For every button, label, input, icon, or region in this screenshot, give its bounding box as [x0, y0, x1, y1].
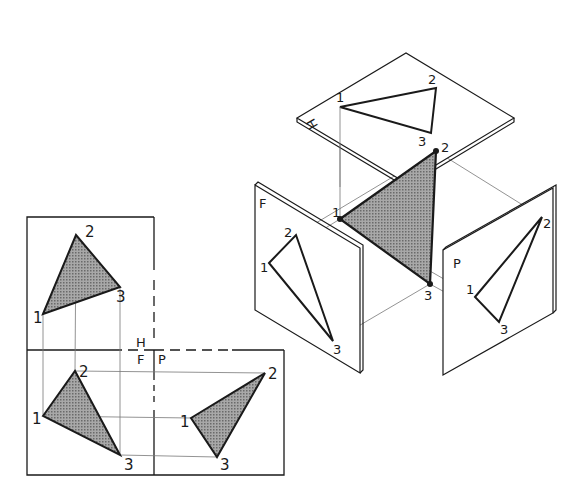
plane-label-p: P: [158, 352, 166, 367]
plane-label-f: F: [137, 352, 144, 367]
profile-plane: P 1 2 3: [443, 185, 556, 375]
plane-label-h: H: [136, 335, 146, 350]
vertex-3-dot: [427, 281, 433, 287]
f-label-1: 1: [260, 260, 268, 275]
side-view-triangle: [191, 373, 265, 457]
h-label-1: 1: [336, 90, 344, 105]
f-plane-label: F: [259, 196, 266, 211]
p-plane-label: P: [453, 256, 461, 271]
frontal-plane: F 2 1 3: [255, 182, 363, 373]
space-label-1: 1: [332, 205, 340, 220]
front-label-2: 2: [79, 363, 89, 381]
h-label-2: 2: [428, 72, 436, 87]
f-label-2: 2: [284, 225, 292, 240]
front-label-3: 3: [124, 456, 134, 474]
front-label-1: 1: [32, 410, 42, 428]
horizontal-plane: H 1 2 3: [297, 53, 514, 187]
orthographic-views: 2 3 1 H F P 2 1 3 2 1 3: [27, 217, 284, 475]
side-label-1: 1: [180, 413, 190, 431]
top-view-triangle: [43, 235, 120, 314]
space-label-3: 3: [424, 288, 432, 303]
pictorial-view: H 1 2 3 F 2 1 3 P 1 2 3: [255, 53, 556, 375]
vertex-2-dot: [433, 148, 439, 154]
side-label-3: 3: [220, 456, 230, 474]
top-label-1: 1: [33, 309, 43, 327]
projection-figure: 2 3 1 H F P 2 1 3 2 1 3: [0, 0, 578, 494]
side-label-2: 2: [268, 365, 278, 383]
p-label-3: 3: [500, 322, 508, 337]
h-label-3: 3: [418, 134, 426, 149]
p-label-1: 1: [466, 282, 474, 297]
space-label-2: 2: [441, 140, 449, 155]
p-label-2: 2: [543, 216, 551, 231]
front-view-triangle: [43, 371, 120, 455]
top-label-2: 2: [85, 223, 95, 241]
top-label-3: 3: [116, 288, 126, 306]
f-label-3: 3: [333, 342, 341, 357]
